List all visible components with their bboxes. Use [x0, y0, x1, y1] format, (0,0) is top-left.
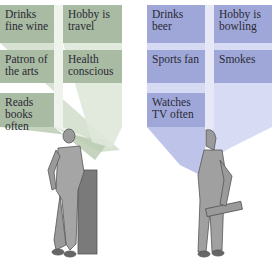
trait-health-conscious: Health conscious — [63, 50, 122, 83]
trait-reads-books-often: Reads books often — [0, 93, 54, 127]
trait-smokes: Smokes — [214, 50, 272, 83]
trait-patron-of-arts: Patron of the arts — [0, 50, 54, 83]
trait-watches-tv-often: Watches TV often — [147, 93, 205, 127]
trait-sports-fan: Sports fan — [147, 50, 205, 83]
trait-drinks-beer: Drinks beer — [147, 5, 205, 43]
lifestyle-profiles-diagram: Drinks fine wine Hobby is travel Patron … — [0, 0, 274, 259]
trait-hobby-travel: Hobby is travel — [63, 5, 122, 43]
trait-drinks-fine-wine: Drinks fine wine — [0, 5, 54, 43]
trait-hobby-bowling: Hobby is bowling — [214, 5, 272, 43]
